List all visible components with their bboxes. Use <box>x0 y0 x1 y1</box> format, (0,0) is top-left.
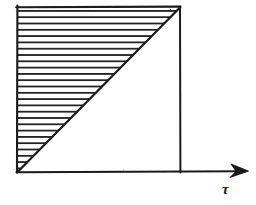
x-axis-line <box>17 171 244 172</box>
figure-container: τ <box>0 0 256 205</box>
top-edge-line <box>16 7 180 8</box>
hatched-triangle-figure: τ <box>0 0 256 205</box>
